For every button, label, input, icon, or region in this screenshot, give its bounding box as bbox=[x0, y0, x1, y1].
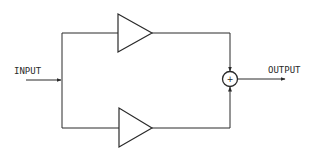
block-diagram: INPUT + OUTPUT bbox=[0, 0, 311, 157]
amplifier-top-icon bbox=[118, 14, 152, 52]
output-label: OUTPUT bbox=[268, 65, 301, 75]
input-label: INPUT bbox=[14, 66, 42, 76]
amplifier-bottom-icon bbox=[119, 108, 152, 147]
plus-sign: + bbox=[227, 75, 234, 84]
